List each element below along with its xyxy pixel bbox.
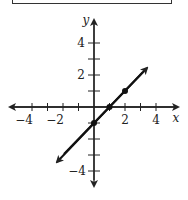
coordinate-plane: −4 −2 2 4 x 4 2 −4 y	[0, 0, 188, 200]
y-tick-label: −4	[68, 164, 86, 178]
point-1-0	[107, 104, 113, 110]
y-axis-label: y	[82, 13, 90, 27]
y-tick-label: 2	[77, 68, 85, 82]
point-0-neg1	[91, 120, 97, 126]
point-2-1	[122, 88, 128, 94]
x-tick-label: −4	[15, 113, 33, 127]
x-axis-label: x	[173, 111, 180, 125]
x-tick-label: 2	[121, 113, 129, 127]
y-tick-label: 4	[77, 36, 85, 50]
x-tick-label: 4	[152, 113, 160, 127]
x-tick-label: −2	[46, 113, 64, 127]
